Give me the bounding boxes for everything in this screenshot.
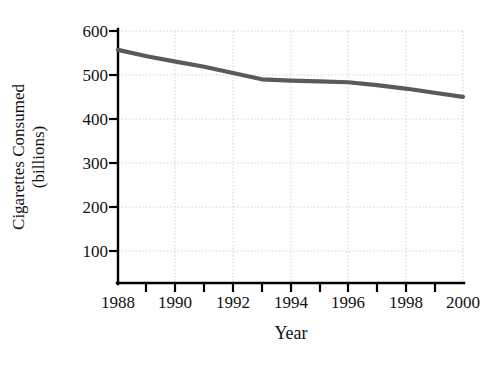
x-tick-label-1990: 1990 xyxy=(158,293,192,313)
x-tick-label-1992: 1992 xyxy=(216,293,250,313)
x-tick-label-1994: 1994 xyxy=(274,293,308,313)
x-axis-ticks xyxy=(146,283,435,292)
x-tick-label-1996: 1996 xyxy=(331,293,365,313)
x-tick-label-1998: 1998 xyxy=(389,293,423,313)
x-axis-title: Year xyxy=(118,322,464,344)
horizontal-gridlines xyxy=(118,31,463,251)
y-axis-ticks xyxy=(109,31,118,251)
x-tick-label-1988: 1988 xyxy=(101,293,135,313)
x-axis-tick-labels: 1988 1990 1992 1994 1996 1998 2000 xyxy=(0,293,501,317)
x-tick-label-2000: 2000 xyxy=(446,293,480,313)
chart-figure: ........ Cigarettes Consumed (billions) … xyxy=(0,0,501,366)
